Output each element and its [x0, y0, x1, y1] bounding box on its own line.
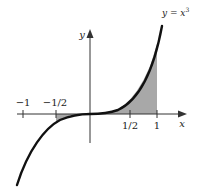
function-label: y = x3 — [161, 6, 189, 18]
x-axis-arrow-icon — [178, 111, 187, 118]
tick-label-neg-half: −1/2 — [43, 97, 67, 108]
cubic-graph: −1 −1/2 1/2 1 x y y = x3 — [0, 0, 200, 192]
function-label-exponent: 3 — [185, 6, 189, 13]
tick-label-neg-1: −1 — [16, 97, 31, 108]
tick-label-1: 1 — [154, 120, 160, 131]
function-label-base: y = x — [161, 8, 185, 18]
tick-label-half: 1/2 — [122, 120, 138, 131]
x-axis-label: x — [179, 118, 185, 129]
y-axis-label: y — [78, 29, 85, 40]
y-axis-arrow-icon — [87, 29, 94, 38]
